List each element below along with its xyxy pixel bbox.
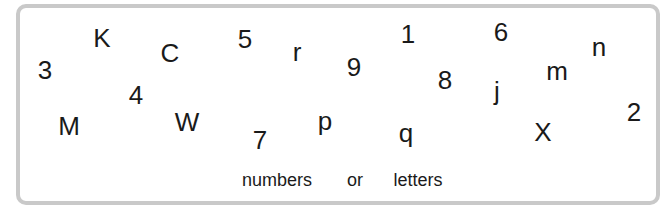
glyph-q: q: [399, 120, 413, 146]
glyph-m: m: [546, 58, 568, 84]
glyph-C: C: [161, 40, 180, 66]
caption-letters: letters: [393, 171, 442, 189]
glyph-1: 1: [401, 21, 415, 47]
glyph-X: X: [534, 119, 551, 145]
glyph-M: M: [58, 113, 80, 139]
glyph-4: 4: [129, 82, 143, 108]
glyph-W: W: [175, 109, 200, 135]
glyph-5: 5: [238, 26, 252, 52]
glyph-3: 3: [38, 57, 52, 83]
caption-numbers: numbers: [242, 171, 312, 189]
glyph-7: 7: [253, 127, 267, 153]
glyph-8: 8: [438, 67, 452, 93]
glyph-r: r: [293, 39, 302, 65]
glyph-n: n: [592, 34, 606, 60]
character-panel: [16, 4, 660, 205]
glyph-9: 9: [347, 54, 361, 80]
glyph-2: 2: [627, 99, 641, 125]
glyph-6: 6: [494, 19, 508, 45]
caption-or: or: [347, 171, 363, 189]
glyph-j: j: [494, 78, 500, 104]
glyph-p: p: [318, 108, 332, 134]
glyph-K: K: [93, 25, 110, 51]
